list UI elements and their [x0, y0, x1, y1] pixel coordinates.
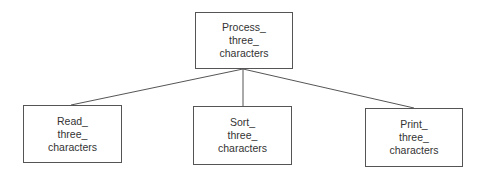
label-line: three_ — [389, 131, 438, 144]
node-process-label: Process_ three_ characters — [219, 21, 268, 60]
label-line: characters — [48, 141, 97, 154]
label-line: Read_ — [48, 115, 97, 128]
label-line: Process_ — [219, 21, 268, 34]
node-process: Process_ three_ characters — [195, 12, 293, 69]
label-line: characters — [219, 47, 268, 60]
label-line: three_ — [48, 128, 97, 141]
label-line: characters — [218, 142, 267, 155]
label-line: three_ — [218, 129, 267, 142]
node-read-label: Read_ three_ characters — [48, 115, 97, 154]
node-sort: Sort_ three_ characters — [193, 106, 292, 165]
node-read: Read_ three_ characters — [23, 105, 122, 163]
edge-process-print — [243, 69, 414, 108]
node-sort-label: Sort_ three_ characters — [218, 116, 267, 155]
node-print: Print_ three_ characters — [365, 108, 463, 167]
label-line: characters — [389, 144, 438, 157]
label-line: Sort_ — [218, 116, 267, 129]
label-line: Print_ — [389, 118, 438, 131]
edge-process-read — [71, 69, 243, 105]
node-print-label: Print_ three_ characters — [389, 118, 438, 157]
label-line: three_ — [219, 34, 268, 47]
